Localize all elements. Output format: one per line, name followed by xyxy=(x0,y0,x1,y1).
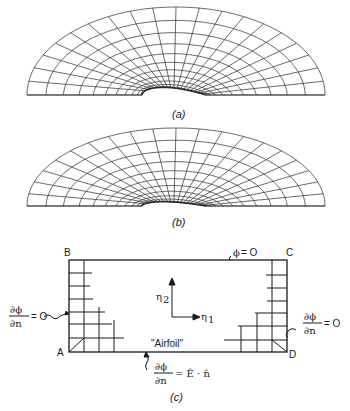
grid-radial xyxy=(108,17,164,88)
corner-d: D xyxy=(289,349,296,360)
right-num: ∂ϕ xyxy=(304,311,316,322)
caption-a: (a) xyxy=(172,108,186,120)
top-phi: ϕ xyxy=(233,247,240,258)
arrowhead-icon xyxy=(193,314,200,320)
corner-a: A xyxy=(57,347,64,358)
arrowhead-icon xyxy=(169,278,175,285)
grid-radial xyxy=(29,81,145,91)
left-num: ∂ϕ xyxy=(10,304,22,315)
corner-c: C xyxy=(286,247,293,258)
leader-left xyxy=(44,313,68,319)
grid-radial xyxy=(56,160,155,202)
eta1-sub: 1 xyxy=(208,314,214,325)
corner-b: B xyxy=(64,247,71,258)
figure-canvas: (a) (b) xyxy=(0,0,350,411)
computational-domain xyxy=(44,256,296,370)
eta1-label: η xyxy=(201,311,207,322)
grid-radial xyxy=(187,24,264,90)
right-den: ∂n xyxy=(304,325,316,336)
bottom-den: ∂n xyxy=(155,375,167,386)
grid-line xyxy=(272,340,287,352)
left-den: ∂n xyxy=(10,318,22,329)
grid-radial xyxy=(177,8,199,88)
right-eq: = O xyxy=(324,318,341,329)
bottom-num: ∂ϕ xyxy=(155,361,167,372)
leader-right xyxy=(286,329,296,337)
airfoil-label: "Airfoil" xyxy=(151,338,184,349)
grid-b xyxy=(27,128,325,206)
grid-radial xyxy=(193,160,296,204)
top-eq: = O xyxy=(241,247,258,258)
grid-a xyxy=(27,7,325,95)
caption-c: (c) xyxy=(170,391,183,403)
arrowhead-icon xyxy=(144,352,149,357)
left-eq: = O xyxy=(31,311,48,322)
grid-line xyxy=(69,338,84,352)
eta2-label: η xyxy=(156,291,162,302)
eta2-sub: 2 xyxy=(163,294,169,305)
grid-radial xyxy=(193,43,296,91)
bottom-eq: = Ê · n̂ xyxy=(175,368,210,379)
grid-radial xyxy=(187,143,264,203)
caption-b: (b) xyxy=(172,216,186,228)
